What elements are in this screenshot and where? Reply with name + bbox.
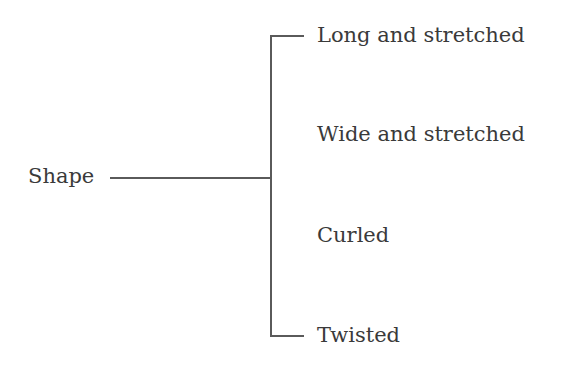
child-node-curled: Curled — [317, 223, 389, 247]
child-node-wide-and-stretched: Wide and stretched — [317, 122, 525, 146]
root-connector-line — [110, 177, 271, 179]
branch-vertical-line — [270, 35, 272, 336]
branch-tick-top — [270, 35, 304, 37]
tree-diagram: Shape Long and stretched Wide and stretc… — [0, 0, 576, 368]
child-node-twisted: Twisted — [317, 323, 400, 347]
branch-tick-bottom — [270, 335, 304, 337]
root-node-shape: Shape — [28, 164, 94, 188]
child-node-long-and-stretched: Long and stretched — [317, 23, 525, 47]
